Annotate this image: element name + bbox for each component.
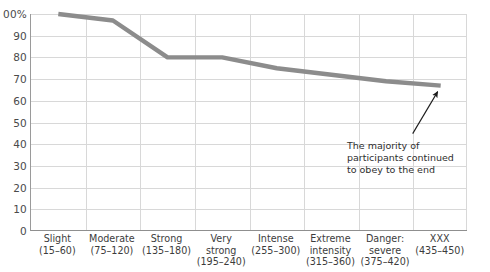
annotation-callout: The majority of participants continued t…: [347, 140, 489, 177]
x-category-range: (315–360): [303, 256, 358, 268]
x-category-range: (135–180): [139, 245, 194, 257]
x-category-range: (435–450): [412, 245, 467, 257]
annotation-line-2: participants continued: [347, 152, 489, 164]
annotation-line-1: The majority of: [347, 140, 489, 152]
x-axis-category-2: Strong(135–180): [139, 233, 194, 272]
x-category-range: (375–420): [358, 256, 413, 268]
annotation-line-3: to obey to the end: [347, 164, 489, 176]
x-category-range: (255–300): [249, 245, 304, 257]
y-axis-labels: 00%9080706050403020100: [0, 0, 30, 272]
x-category-name: XXX: [412, 233, 467, 245]
x-category-name: Intense: [249, 233, 304, 245]
x-category-name: Danger:: [358, 233, 413, 245]
y-tick-label-10: 10: [13, 203, 27, 215]
x-axis-category-0: Slight(15–60): [30, 233, 85, 272]
x-category-name: Moderate: [85, 233, 140, 245]
x-axis-labels: Slight(15–60)Moderate(75–120)Strong(135–…: [30, 233, 467, 272]
y-tick-label-60: 60: [13, 95, 27, 107]
y-tick-label-40: 40: [13, 138, 27, 150]
x-category-name: Strong: [139, 233, 194, 245]
y-tick-label-70: 70: [13, 73, 27, 85]
x-category-name: severe: [358, 245, 413, 257]
x-category-name: Slight: [30, 233, 85, 245]
x-category-range: (195–240): [194, 256, 249, 268]
annotation-arrow: [413, 92, 438, 134]
x-category-name: Extreme: [303, 233, 358, 245]
plot-area: [30, 14, 467, 231]
series-line-obedience: [58, 14, 440, 86]
chart-container: 00%9080706050403020100 The majority of p…: [0, 0, 490, 272]
y-tick-label-90: 90: [13, 30, 27, 42]
x-category-name: strong: [194, 245, 249, 257]
y-tick-label-20: 20: [13, 182, 27, 194]
x-axis-category-1: Moderate(75–120): [85, 233, 140, 272]
x-axis-category-4: Intense(255–300): [249, 233, 304, 272]
x-axis-category-6: Danger:severe(375–420): [358, 233, 413, 272]
y-tick-label-30: 30: [13, 160, 27, 172]
y-tick-label-0: 0: [20, 225, 27, 237]
x-category-name: intensity: [303, 245, 358, 257]
data-series-layer: [31, 14, 468, 231]
x-category-range: (75–120): [85, 245, 140, 257]
y-tick-label-100: 00%: [3, 8, 27, 20]
x-axis-category-5: Extremeintensity(315–360): [303, 233, 358, 272]
x-category-name: Very: [194, 233, 249, 245]
x-axis-category-7: XXX(435–450): [412, 233, 467, 272]
y-tick-label-80: 80: [13, 51, 27, 63]
x-axis-category-3: Verystrong(195–240): [194, 233, 249, 272]
y-tick-label-50: 50: [13, 117, 27, 129]
x-category-range: (15–60): [30, 245, 85, 257]
